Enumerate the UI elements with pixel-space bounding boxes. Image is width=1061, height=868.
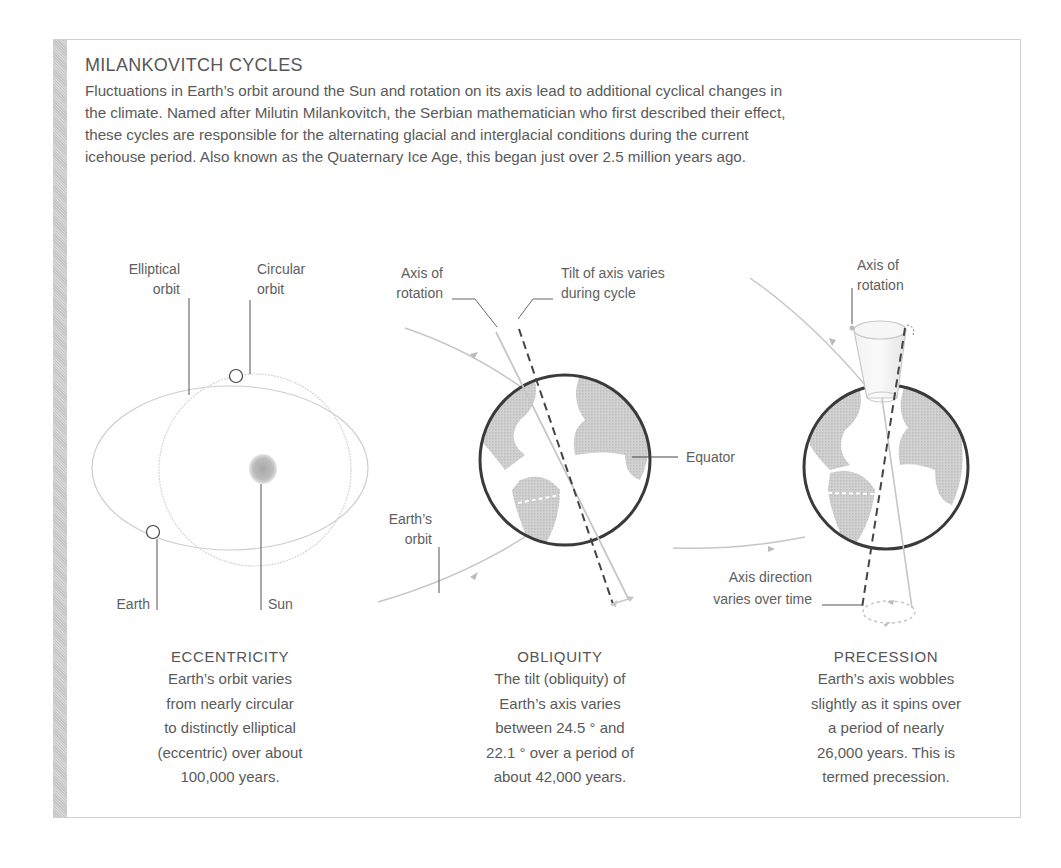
- label-axis-direction: Axis direction: [729, 569, 812, 585]
- elliptical-orbit: [92, 386, 368, 550]
- label-tilt-varies: Tilt of axis varies: [561, 265, 665, 281]
- label-sun: Sun: [268, 596, 293, 612]
- svg-text:orbit: orbit: [257, 281, 284, 297]
- caption-text-precession: Earth’s axis wobbles slightly as it spin…: [781, 667, 991, 790]
- caption-text-obliquity: The tilt (obliquity) of Earth’s axis var…: [460, 667, 660, 790]
- caption-precession: PRECESSION Earth’s axis wobbles slightly…: [781, 648, 991, 790]
- label-elliptical: Elliptical: [129, 261, 180, 277]
- orbit-path-precession: [750, 278, 865, 385]
- svg-text:during cycle: during cycle: [561, 285, 636, 301]
- earth-icon-top: [230, 370, 243, 383]
- earth-icon: [147, 526, 160, 539]
- sun-icon: [249, 454, 277, 484]
- label-axis-of-rotation: Axis of: [401, 265, 443, 281]
- caption-title-eccentricity: ECCENTRICITY: [135, 648, 325, 665]
- caption-text-eccentricity: Earth’s orbit varies from nearly circula…: [135, 667, 325, 790]
- caption-obliquity: OBLIQUITY The tilt (obliquity) of Earth’…: [460, 648, 660, 790]
- label-equator: Equator: [686, 449, 735, 465]
- precession-circle: [863, 601, 915, 623]
- obliquity-diagram: Axis of rotation Tilt of axis varies dur…: [378, 265, 735, 607]
- caption-title-precession: PRECESSION: [781, 648, 991, 665]
- label-earth: Earth: [117, 596, 150, 612]
- svg-text:rotation: rotation: [396, 285, 443, 301]
- orbit-path: [405, 328, 525, 390]
- caption-eccentricity: ECCENTRICITY Earth’s orbit varies from n…: [135, 648, 325, 790]
- label-earths-orbit: Earth’s: [389, 511, 432, 527]
- label-axis-of-rotation-precession: Axis of: [857, 257, 899, 273]
- eccentricity-diagram: Elliptical orbit Circular orbit Earth Su…: [92, 261, 368, 612]
- svg-text:orbit: orbit: [405, 531, 432, 547]
- svg-text:rotation: rotation: [857, 277, 904, 293]
- svg-text:varies over time: varies over time: [713, 591, 812, 607]
- precession-diagram: Axis of rotation Axis direction varies o…: [673, 257, 968, 627]
- label-circular: Circular: [257, 261, 306, 277]
- caption-title-obliquity: OBLIQUITY: [460, 648, 660, 665]
- svg-text:orbit: orbit: [153, 281, 180, 297]
